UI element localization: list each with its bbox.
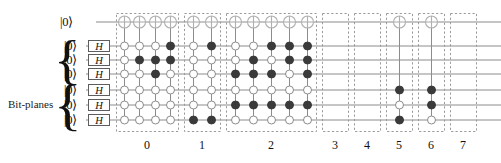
qubit-state-label-0: |0⟩ — [60, 14, 73, 30]
control-dot-open[interactable] — [208, 70, 216, 78]
control-dot-filled[interactable] — [167, 56, 175, 64]
control-dot-filled[interactable] — [190, 116, 198, 124]
lower-bitplane-brace: { — [54, 82, 82, 128]
group-box-7 — [451, 14, 477, 132]
control-dot-filled[interactable] — [304, 42, 312, 50]
group-label-0: 0 — [116, 138, 178, 153]
control-dot-open[interactable] — [167, 101, 175, 109]
control-dot-open[interactable] — [286, 70, 294, 78]
group-box-4 — [355, 14, 381, 132]
control-dot-filled[interactable] — [232, 101, 240, 109]
control-dot-open[interactable] — [190, 101, 198, 109]
control-dot-open[interactable] — [152, 42, 160, 50]
control-dot-open[interactable] — [232, 42, 240, 50]
control-dot-open[interactable] — [190, 86, 198, 94]
control-dot-filled[interactable] — [136, 56, 144, 64]
control-dot-filled[interactable] — [250, 56, 258, 64]
control-dot-open[interactable] — [428, 116, 436, 124]
control-dot-open[interactable] — [136, 42, 144, 50]
control-dot-filled[interactable] — [152, 70, 160, 78]
control-dot-filled[interactable] — [286, 42, 294, 50]
control-dot-filled[interactable] — [304, 56, 312, 64]
hadamard-gate-q5[interactable]: H — [88, 99, 110, 111]
control-dot-filled[interactable] — [428, 101, 436, 109]
control-dot-filled[interactable] — [250, 70, 258, 78]
figure-canvas: Bit-planes |0⟩|0⟩|0⟩|0⟩|0⟩|0⟩|0⟩ {{ HHHH… — [0, 0, 501, 163]
control-dot-filled[interactable] — [268, 42, 276, 50]
hadamard-gate-q2[interactable]: H — [88, 54, 110, 66]
control-dot-filled[interactable] — [208, 116, 216, 124]
control-dot-open[interactable] — [208, 86, 216, 94]
control-dot-open[interactable] — [208, 101, 216, 109]
control-dot-open[interactable] — [167, 86, 175, 94]
hadamard-gate-q1[interactable]: H — [88, 40, 110, 52]
control-dot-filled[interactable] — [286, 56, 294, 64]
group-label-7: 7 — [450, 138, 476, 153]
control-dot-filled[interactable] — [268, 101, 276, 109]
control-dot-filled[interactable] — [152, 56, 160, 64]
control-dot-open[interactable] — [268, 86, 276, 94]
group-label-5: 5 — [386, 138, 412, 153]
control-dot-open[interactable] — [286, 116, 294, 124]
control-dot-open[interactable] — [136, 116, 144, 124]
control-dot-open[interactable] — [268, 56, 276, 64]
control-dot-open[interactable] — [121, 116, 129, 124]
group-label-2: 2 — [226, 138, 316, 153]
control-dot-filled[interactable] — [268, 70, 276, 78]
control-dot-open[interactable] — [190, 70, 198, 78]
control-dot-open[interactable] — [136, 86, 144, 94]
control-dot-filled[interactable] — [304, 70, 312, 78]
control-dot-open[interactable] — [121, 101, 129, 109]
control-dot-filled[interactable] — [396, 116, 404, 124]
control-dot-filled[interactable] — [232, 70, 240, 78]
group-label-3: 3 — [322, 138, 348, 153]
control-dot-open[interactable] — [167, 116, 175, 124]
group-label-4: 4 — [354, 138, 380, 153]
control-dot-open[interactable] — [250, 86, 258, 94]
control-dot-filled[interactable] — [286, 101, 294, 109]
control-dot-open[interactable] — [232, 56, 240, 64]
control-dot-filled[interactable] — [208, 42, 216, 50]
group-label-6: 6 — [418, 138, 444, 153]
control-dot-open[interactable] — [121, 42, 129, 50]
control-dot-open[interactable] — [304, 86, 312, 94]
control-dot-open[interactable] — [167, 70, 175, 78]
control-dot-filled[interactable] — [304, 101, 312, 109]
group-label-1: 1 — [184, 138, 220, 153]
control-dot-open[interactable] — [304, 116, 312, 124]
control-dot-open[interactable] — [152, 116, 160, 124]
control-dot-open[interactable] — [121, 70, 129, 78]
hadamard-gate-q6[interactable]: H — [88, 114, 110, 126]
hadamard-gate-q4[interactable]: H — [88, 84, 110, 96]
control-dot-open[interactable] — [190, 42, 198, 50]
control-dot-open[interactable] — [136, 101, 144, 109]
control-dot-open[interactable] — [152, 86, 160, 94]
control-dot-open[interactable] — [121, 86, 129, 94]
control-dot-open[interactable] — [208, 56, 216, 64]
hadamard-gate-q3[interactable]: H — [88, 68, 110, 80]
control-dot-open[interactable] — [121, 56, 129, 64]
control-dot-filled[interactable] — [167, 42, 175, 50]
control-dot-open[interactable] — [232, 86, 240, 94]
control-dot-filled[interactable] — [250, 101, 258, 109]
control-dot-open[interactable] — [250, 116, 258, 124]
group-box-3 — [323, 14, 349, 132]
control-dot-open[interactable] — [152, 101, 160, 109]
control-dot-filled[interactable] — [396, 86, 404, 94]
control-dot-open[interactable] — [136, 70, 144, 78]
control-dot-filled[interactable] — [428, 86, 436, 94]
control-dot-open[interactable] — [268, 116, 276, 124]
control-dot-open[interactable] — [250, 42, 258, 50]
control-dot-open[interactable] — [232, 116, 240, 124]
control-dot-open[interactable] — [286, 86, 294, 94]
control-dot-open[interactable] — [190, 56, 198, 64]
control-dot-open[interactable] — [396, 101, 404, 109]
